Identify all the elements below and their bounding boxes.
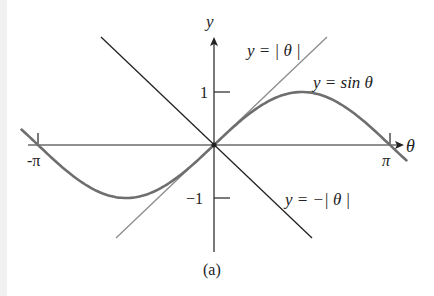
label-neg-abs: y = −| θ | (283, 190, 350, 209)
figure-plot: y θ -π π 1 −1 y = | θ | y = sin θ y = −|… (0, 0, 434, 296)
x-axis-label: θ (406, 136, 415, 156)
origin-dot (212, 143, 217, 148)
tick-label-neg-pi: -π (27, 152, 40, 169)
tick-label-neg-one: −1 (186, 190, 203, 207)
label-abs: y = | θ | (245, 41, 301, 60)
label-sin: y = sin θ (311, 73, 373, 92)
curve-neg-abs (101, 37, 312, 238)
figure-caption: (a) (203, 261, 221, 279)
y-axis-label: y (204, 12, 214, 31)
tick-label-one: 1 (200, 84, 208, 101)
tick-label-pi: π (382, 152, 391, 169)
